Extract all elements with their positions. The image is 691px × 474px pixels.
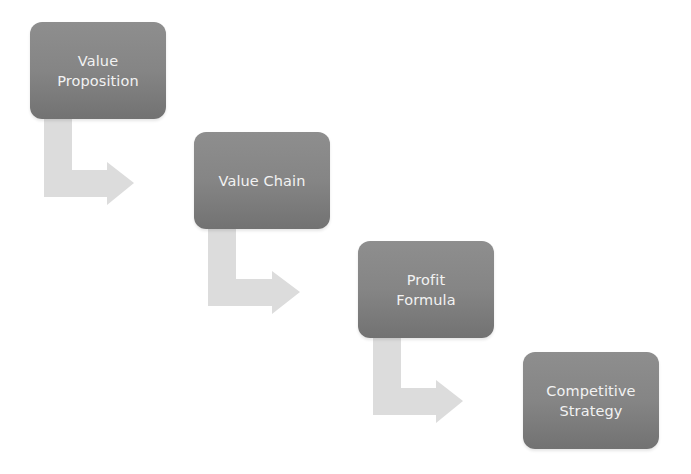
bent-arrow-right-icon — [373, 338, 463, 423]
step-label: Value Chain — [219, 171, 306, 191]
step-value-proposition: Value Proposition — [30, 22, 166, 119]
step-label: Competitive Strategy — [546, 381, 635, 421]
bent-arrow-right-icon — [44, 119, 134, 205]
step-profit-formula: Profit Formula — [358, 241, 494, 338]
step-competitive-strategy: Competitive Strategy — [523, 352, 659, 449]
bent-arrow-right-icon — [208, 228, 300, 314]
process-diagram: Value Proposition Value Chain Profit For… — [0, 0, 691, 474]
step-label: Profit Formula — [396, 270, 455, 310]
step-label: Value Proposition — [57, 51, 139, 91]
step-value-chain: Value Chain — [194, 132, 330, 229]
